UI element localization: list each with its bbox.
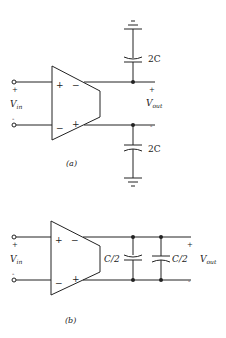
caption-a: (a) — [66, 159, 77, 168]
output-minus-sign: - — [150, 122, 153, 130]
capacitor-bottom-2c — [124, 125, 142, 178]
capacitor-top-2c — [124, 29, 142, 82]
vin-label: Vin — [10, 99, 22, 110]
capacitor-right-c-half — [152, 237, 170, 280]
input-terminal-plus — [12, 80, 16, 84]
input-plus-sign: + — [12, 86, 18, 94]
opamp-noninverting-input: + — [56, 80, 64, 90]
opamp-output-plus: + — [72, 119, 80, 129]
opamp-inverting-input: − — [55, 278, 63, 288]
capacitor-left-c-half — [124, 237, 142, 280]
vout-label: Vout — [146, 98, 163, 109]
figure-b: + - Vin + − − + C/2 C/2 + - Vout (b) — [10, 221, 217, 325]
input-minus-sign: - — [12, 270, 15, 278]
opamp-output-minus: − — [71, 235, 79, 245]
opamp-noninverting-input: + — [55, 235, 63, 245]
input-minus-sign: - — [12, 115, 15, 123]
ground-symbol-top — [124, 21, 142, 29]
input-terminal-minus — [12, 278, 16, 282]
caption-b: (b) — [65, 316, 76, 325]
input-terminal-plus — [12, 235, 16, 239]
vout-label: Vout — [200, 254, 217, 265]
output-minus-sign: - — [188, 277, 191, 285]
cap-top-label: 2C — [148, 54, 161, 64]
input-terminal-minus — [12, 123, 16, 127]
opamp-inverting-input: − — [56, 123, 64, 133]
opamp-output-plus: + — [72, 274, 80, 284]
output-plus-sign: + — [187, 241, 193, 249]
ground-symbol-bottom — [124, 178, 142, 186]
figure-a: + - Vin + − − + + - Vout 2C 2C (a) — [10, 21, 163, 186]
vin-label: Vin — [10, 254, 22, 265]
input-plus-sign: + — [12, 241, 18, 249]
opamp-output-minus: − — [72, 80, 80, 90]
cap-right-label: C/2 — [172, 254, 188, 264]
cap-bottom-label: 2C — [148, 144, 161, 154]
cap-left-label: C/2 — [104, 254, 120, 264]
output-plus-sign: + — [149, 86, 155, 94]
circuit-diagrams: + - Vin + − − + + - Vout 2C 2C (a) — [0, 0, 226, 338]
